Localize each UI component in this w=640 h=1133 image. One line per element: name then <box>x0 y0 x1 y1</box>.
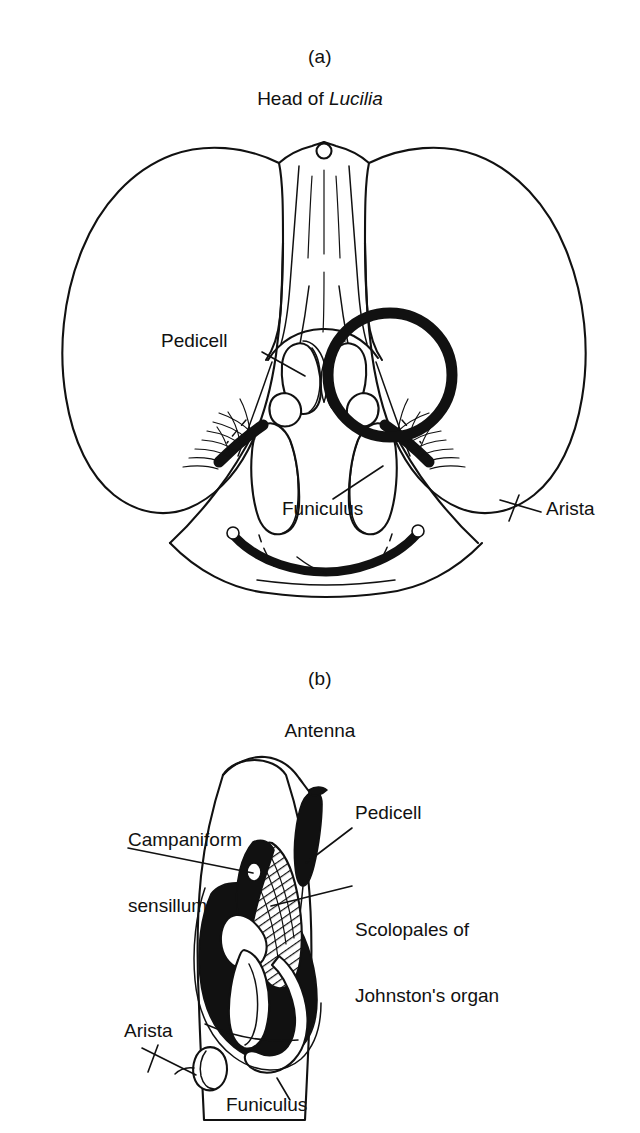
arista-leader-cross-b <box>148 1045 158 1072</box>
left-pedicel-lobe <box>269 393 301 426</box>
frons-left-border <box>266 243 283 360</box>
frons-stripe-5 <box>300 286 309 344</box>
pedicel-tip-hook <box>309 787 327 795</box>
antenna-section-drawing <box>0 620 640 1133</box>
label-scolopales: Scolopales of Johnston's organ <box>355 875 499 1051</box>
frons-stripe-7 <box>323 272 324 332</box>
label-campaniform-line1: Campaniform <box>128 829 242 851</box>
panel-a-head: (a) Head of Lucilia <box>0 0 640 620</box>
pedicel-black-shape <box>294 792 322 886</box>
frons-stripe-4 <box>336 176 340 258</box>
right-eye-outline <box>365 148 586 513</box>
figure-antenna-plate: (a) Head of Lucilia <box>0 0 640 1133</box>
frons-outline <box>279 142 369 163</box>
label-funiculus-b: Funiculus <box>226 1094 307 1116</box>
label-funiculus-a: Funiculus <box>282 498 363 520</box>
arista-leader-line-b <box>142 1048 196 1075</box>
label-scolopales-line1: Scolopales of <box>355 919 499 941</box>
frons-right-border <box>365 243 382 360</box>
head-drawing <box>0 0 640 620</box>
arista-stub <box>193 1047 227 1090</box>
mouth-lower-line <box>257 580 395 585</box>
oral-socket-right <box>412 525 424 537</box>
oral-socket-left <box>227 527 239 539</box>
label-pedicell-b: Pedicell <box>355 802 422 824</box>
label-pedicell-a: Pedicell <box>161 330 228 352</box>
label-campaniform-line2: sensillum <box>128 895 242 917</box>
panel-b-antenna: (b) Antenna <box>0 620 640 1133</box>
ocellus-icon <box>317 144 332 159</box>
label-campaniform-sensillum: Campaniform sensillum <box>128 785 242 961</box>
frons-stripe-3 <box>308 176 312 258</box>
label-scolopales-line2: Johnston's organ <box>355 985 499 1007</box>
label-arista-a: Arista <box>546 498 595 520</box>
label-arista-b: Arista <box>124 1020 173 1042</box>
